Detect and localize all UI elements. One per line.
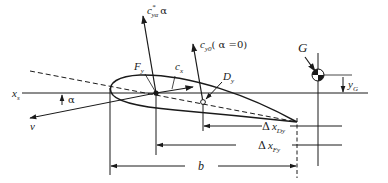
g-leader-arrow (305, 57, 315, 71)
gravity-center-icon (312, 69, 324, 81)
gravity-center-label: G (298, 40, 308, 55)
airfoil-force-diagram: c*yαα cy0( α =0) cx Fy Dy v α xs G yG Δx… (0, 0, 388, 183)
dim-dy-label: ΔxDy (262, 120, 286, 135)
chord-label: b (198, 159, 204, 173)
dim-fy-label: ΔxFy (258, 139, 281, 154)
lift-alpha-label: c*yαα (147, 3, 167, 19)
drag-label: cx (175, 60, 184, 75)
airfoil-profile (110, 75, 297, 122)
dy-point (201, 100, 206, 105)
fy-point (153, 90, 158, 95)
velocity-label: v (30, 120, 35, 132)
drag-arrow (156, 87, 193, 93)
alpha-label: α (68, 94, 75, 105)
axis-label: xs (11, 87, 20, 102)
yg-label: yG (347, 78, 358, 93)
dy-label: Dy (222, 70, 235, 85)
fy-label: Fy (133, 60, 145, 75)
lift-zero-label: cy0( α =0) (200, 38, 247, 53)
